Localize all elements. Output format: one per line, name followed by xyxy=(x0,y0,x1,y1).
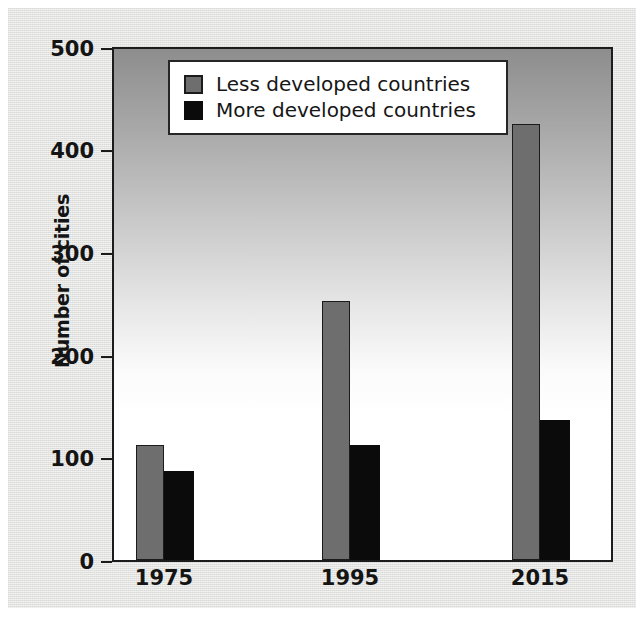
plot-area: Less developed countries More developed … xyxy=(112,47,613,562)
legend-swatch-black-icon xyxy=(184,101,203,120)
bar-less-developed-2015[interactable] xyxy=(512,124,540,560)
legend-label-less-developed: Less developed countries xyxy=(216,74,470,94)
y-axis-tick-label: 200 xyxy=(50,347,101,368)
x-axis-tick-layer: 1975 1995 2015 xyxy=(112,566,613,606)
legend-item-more-developed[interactable]: More developed countries xyxy=(184,97,492,123)
bar-group-2015 xyxy=(512,49,572,560)
y-axis-tick-label: 400 xyxy=(50,141,101,162)
x-axis-tick-label-2015: 2015 xyxy=(511,566,569,590)
y-axis-tick-mark xyxy=(101,150,112,152)
bar-more-developed-1995[interactable] xyxy=(350,445,380,560)
x-axis-tick-label-1995: 1995 xyxy=(321,566,379,590)
legend-item-less-developed[interactable]: Less developed countries xyxy=(184,71,492,97)
y-axis-tick-label: 0 xyxy=(79,552,101,573)
y-axis-tick-mark xyxy=(101,356,112,358)
y-axis-tick-layer: 500 400 300 200 100 0 xyxy=(0,0,112,624)
x-axis-tick-label-1975: 1975 xyxy=(135,566,193,590)
bar-less-developed-1975[interactable] xyxy=(136,445,164,560)
y-axis-tick-mark xyxy=(101,458,112,460)
chart-legend: Less developed countries More developed … xyxy=(168,60,508,135)
y-axis-tick-label: 300 xyxy=(50,244,101,265)
y-axis-tick-mark xyxy=(101,561,112,563)
y-axis-tick-label: 100 xyxy=(50,449,101,470)
bar-more-developed-1975[interactable] xyxy=(164,471,194,560)
y-axis-tick-mark xyxy=(101,48,112,50)
legend-swatch-gray-icon xyxy=(184,75,203,94)
bar-more-developed-2015[interactable] xyxy=(540,420,570,560)
legend-label-more-developed: More developed countries xyxy=(216,100,476,120)
bar-less-developed-1995[interactable] xyxy=(322,301,350,560)
y-axis-tick-mark xyxy=(101,253,112,255)
bar-chart-figure: Number of cities 500 400 300 200 100 0 xyxy=(0,0,644,624)
y-axis-tick-label: 500 xyxy=(50,39,101,60)
